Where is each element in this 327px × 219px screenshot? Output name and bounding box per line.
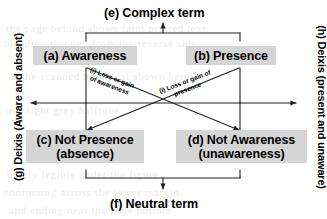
node-awareness: (a) Awareness bbox=[33, 46, 137, 65]
node-not-awareness-label: (d) Not Awareness bbox=[188, 133, 295, 147]
complex-term-label: (e) Complex term bbox=[104, 6, 205, 20]
node-not-presence-label: (c) Not Presence bbox=[36, 133, 133, 147]
node-not-awareness: (d) Not Awareness (unawareness) bbox=[176, 130, 307, 163]
node-not-presence-sublabel: (absence) bbox=[56, 147, 113, 161]
node-not-awareness-sublabel: (unawareness) bbox=[198, 147, 284, 161]
right-deixis-label: (h) Deixis (present and unaware) bbox=[316, 17, 327, 197]
connector-lines bbox=[0, 0, 327, 219]
neutral-term-label: (f) Neutral term bbox=[110, 197, 198, 211]
node-presence: (b) Presence bbox=[186, 46, 276, 65]
semiotic-square-diagram: the page behind shows faint printed text… bbox=[0, 0, 327, 219]
node-awareness-label: (a) Awareness bbox=[44, 49, 127, 63]
node-presence-label: (b) Presence bbox=[194, 49, 268, 63]
left-deixis-label: (g) Deixis (Aware and absent) bbox=[12, 32, 24, 182]
node-not-presence: (c) Not Presence (absence) bbox=[26, 130, 144, 163]
